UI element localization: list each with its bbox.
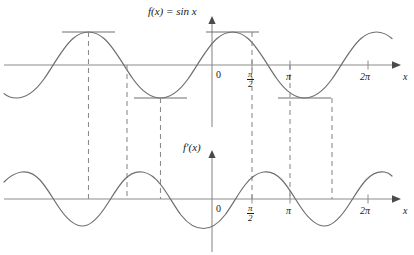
top-tick-label-pi-over-2: π 2 bbox=[247, 70, 254, 90]
top-tick-label-2pi: 2π bbox=[360, 72, 370, 82]
top-pi-over-2-denominator: 2 bbox=[247, 80, 254, 89]
bottom-pi-over-2-denominator: 2 bbox=[247, 214, 254, 223]
bottom-x-axis-label: x bbox=[403, 206, 407, 216]
bottom-function-label: f′(x) bbox=[183, 142, 201, 153]
top-y-axis bbox=[208, 16, 215, 127]
bottom-y-axis bbox=[208, 150, 215, 252]
bottom-y-axis-arrowhead bbox=[208, 150, 215, 158]
dashed-connectors bbox=[89, 32, 333, 199]
bottom-x-axis-arrowhead bbox=[392, 195, 401, 202]
top-origin-label: 0 bbox=[216, 70, 221, 80]
bottom-origin-label: 0 bbox=[216, 204, 221, 214]
sine-derivative-figure: f(x) = sin x 0 π 2 π 2π x f′(x) 0 π 2 π … bbox=[0, 0, 414, 255]
top-x-axis-label: x bbox=[403, 72, 407, 82]
top-y-axis-arrowhead bbox=[208, 16, 215, 24]
top-x-axis-arrowhead bbox=[392, 61, 401, 68]
bottom-tick-label-pi-over-2: π 2 bbox=[247, 204, 254, 224]
bottom-x-axis bbox=[4, 195, 401, 202]
top-panel bbox=[4, 16, 401, 127]
top-tick-label-pi: π bbox=[286, 72, 291, 82]
bottom-tick-label-2pi: 2π bbox=[360, 206, 370, 216]
figure-canvas bbox=[0, 0, 414, 255]
top-function-label: f(x) = sin x bbox=[148, 6, 197, 17]
cosine-curve bbox=[4, 172, 392, 229]
bottom-panel bbox=[4, 150, 401, 252]
bottom-tick-label-pi: π bbox=[286, 206, 291, 216]
